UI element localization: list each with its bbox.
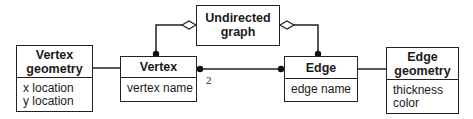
class-title-line: geometry <box>394 64 450 78</box>
graph-vertex-aggregation-line <box>156 25 188 54</box>
multiplicity-label: 2 <box>206 74 212 86</box>
class-vertex-geometry: Vertex geometry x location y location <box>16 45 93 112</box>
many-multiplicity-dot-icon <box>197 66 203 72</box>
aggregation-diamond-icon <box>280 21 294 29</box>
attribute-color: color <box>393 97 458 110</box>
class-title: Edge <box>285 57 357 79</box>
class-title-line: graph <box>221 25 256 39</box>
class-vertex: Vertex vertex name <box>120 56 197 102</box>
class-attributes: vertex name <box>121 78 196 95</box>
class-undirected-graph: Undirected graph <box>196 5 280 46</box>
class-title-line: Vertex <box>36 48 74 62</box>
class-edge: Edge edge name <box>284 56 358 102</box>
class-title: Vertex <box>121 57 196 78</box>
class-attributes: x location y location <box>17 78 92 108</box>
aggregation-diamond-icon <box>182 21 196 29</box>
class-title-line: Undirected <box>205 11 270 25</box>
class-title-line: Edge <box>306 61 337 75</box>
class-title: Vertex geometry <box>17 46 92 78</box>
attribute-y-location: y location <box>23 95 92 108</box>
class-title-line: geometry <box>26 62 82 76</box>
class-attributes: thickness color <box>387 80 458 110</box>
class-title-line: Edge <box>407 50 438 64</box>
class-title: Edge geometry <box>387 48 458 80</box>
class-title: Undirected graph <box>197 6 279 44</box>
class-title-line: Vertex <box>140 60 178 74</box>
graph-edge-aggregation-line <box>288 25 318 54</box>
class-edge-geometry: Edge geometry thickness color <box>386 47 459 114</box>
attribute-edge-name: edge name <box>291 83 357 96</box>
attribute-vertex-name: vertex name <box>127 82 196 95</box>
class-attributes: edge name <box>285 79 357 96</box>
